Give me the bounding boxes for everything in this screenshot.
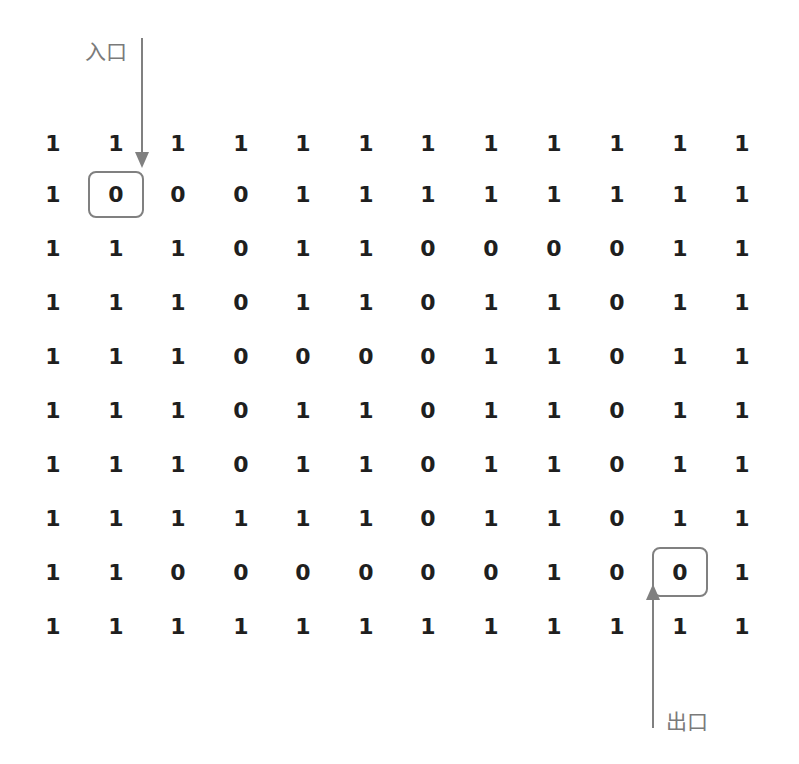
maze-cell: 0 [283, 336, 323, 376]
maze-cell: 0 [221, 228, 261, 268]
maze-cell: 1 [722, 390, 762, 430]
maze-cell: 1 [534, 552, 574, 592]
maze-cell: 0 [597, 444, 637, 484]
maze-cell: 0 [221, 444, 261, 484]
maze-cell: 0 [408, 444, 448, 484]
maze-cell: 1 [33, 498, 73, 538]
maze-cell: 0 [597, 228, 637, 268]
maze-cell: 1 [33, 282, 73, 322]
maze-cell: 1 [722, 174, 762, 214]
maze-cell: 1 [283, 390, 323, 430]
maze-cell: 1 [283, 282, 323, 322]
maze-cell: 1 [471, 444, 511, 484]
exit-arrow-line [652, 598, 654, 728]
maze-cell: 1 [408, 174, 448, 214]
maze-cell: 0 [346, 552, 386, 592]
maze-cell: 1 [33, 444, 73, 484]
entrance-highlight-box [88, 171, 144, 218]
maze-cell: 1 [471, 282, 511, 322]
maze-cell: 1 [660, 336, 700, 376]
maze-cell: 1 [33, 174, 73, 214]
maze-cell: 0 [597, 552, 637, 592]
maze-cell: 1 [158, 444, 198, 484]
maze-cell: 0 [221, 174, 261, 214]
maze-cell: 1 [221, 606, 261, 646]
maze-cell: 0 [408, 390, 448, 430]
maze-cell: 1 [33, 336, 73, 376]
maze-cell: 1 [346, 228, 386, 268]
maze-cell: 1 [221, 123, 261, 163]
maze-cell: 1 [283, 123, 323, 163]
maze-cell: 1 [96, 390, 136, 430]
maze-cell: 1 [346, 123, 386, 163]
maze-cell: 1 [722, 228, 762, 268]
maze-cell: 0 [471, 552, 511, 592]
maze-cell: 1 [660, 174, 700, 214]
maze-cell: 0 [408, 228, 448, 268]
maze-cell: 0 [534, 228, 574, 268]
maze-cell: 1 [221, 498, 261, 538]
maze-cell: 1 [597, 606, 637, 646]
maze-cell: 0 [158, 552, 198, 592]
maze-cell: 1 [283, 228, 323, 268]
maze-cell: 1 [534, 174, 574, 214]
maze-cell: 0 [471, 228, 511, 268]
entrance-arrow-down-icon [135, 152, 149, 168]
maze-cell: 1 [534, 336, 574, 376]
maze-cell: 1 [96, 336, 136, 376]
maze-cell: 1 [96, 444, 136, 484]
maze-cell: 1 [660, 282, 700, 322]
maze-cell: 1 [158, 228, 198, 268]
maze-cell: 1 [722, 606, 762, 646]
maze-cell: 1 [346, 444, 386, 484]
maze-cell: 1 [158, 606, 198, 646]
maze-cell: 1 [534, 444, 574, 484]
maze-cell: 1 [471, 336, 511, 376]
maze-cell: 1 [283, 174, 323, 214]
maze-cell: 1 [534, 282, 574, 322]
maze-cell: 1 [534, 606, 574, 646]
maze-cell: 1 [346, 390, 386, 430]
maze-cell: 0 [408, 282, 448, 322]
maze-cell: 1 [96, 552, 136, 592]
maze-cell: 1 [597, 123, 637, 163]
maze-cell: 1 [346, 498, 386, 538]
maze-cell: 1 [722, 123, 762, 163]
maze-cell: 1 [33, 606, 73, 646]
maze-cell: 1 [96, 123, 136, 163]
maze-cell: 1 [408, 606, 448, 646]
maze-cell: 1 [158, 498, 198, 538]
maze-cell: 1 [534, 498, 574, 538]
entrance-label: 入口 [85, 35, 127, 65]
maze-cell: 1 [534, 123, 574, 163]
maze-cell: 0 [221, 552, 261, 592]
maze-cell: 1 [158, 123, 198, 163]
maze-cell: 1 [96, 282, 136, 322]
maze-cell: 1 [660, 444, 700, 484]
maze-cell: 1 [597, 174, 637, 214]
maze-cell: 0 [408, 336, 448, 376]
maze-cell: 1 [471, 498, 511, 538]
maze-cell: 1 [534, 390, 574, 430]
maze-cell: 1 [408, 123, 448, 163]
maze-cell: 1 [96, 606, 136, 646]
maze-cell: 1 [33, 552, 73, 592]
maze-cell: 1 [33, 228, 73, 268]
maze-cell: 0 [408, 552, 448, 592]
maze-cell: 1 [346, 282, 386, 322]
maze-cell: 1 [471, 174, 511, 214]
maze-cell: 1 [471, 606, 511, 646]
maze-cell: 0 [221, 336, 261, 376]
maze-cell: 1 [283, 498, 323, 538]
maze-cell: 0 [221, 390, 261, 430]
maze-cell: 1 [283, 444, 323, 484]
maze-cell: 1 [33, 123, 73, 163]
maze-cell: 0 [408, 498, 448, 538]
maze-cell: 1 [660, 123, 700, 163]
maze-cell: 0 [597, 282, 637, 322]
maze-cell: 1 [158, 390, 198, 430]
maze-cell: 1 [96, 228, 136, 268]
maze-cell: 1 [346, 174, 386, 214]
exit-label: 出口 [666, 705, 708, 735]
maze-cell: 1 [471, 390, 511, 430]
